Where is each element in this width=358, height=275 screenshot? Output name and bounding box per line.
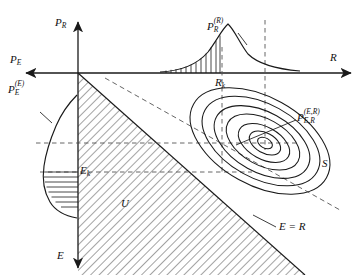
pe-axis-label: PE: [10, 54, 17, 65]
pe-marginal-label: PE(E): [8, 84, 15, 95]
pe-label-leader: [40, 112, 52, 123]
figure-root: PR PE R E PR(R) PE(E) PE,R(E,R) Rk Ek U …: [0, 0, 358, 275]
pr-marginal-label: PR(R): [207, 21, 214, 32]
joint-label-leader: [236, 120, 296, 145]
r-axis-label: R: [330, 52, 337, 63]
pr-axis-label: PR: [55, 17, 62, 28]
ek-label: Ek: [80, 165, 87, 176]
joint-distribution-label: PE,R(E,R): [297, 112, 304, 123]
rk-label: Rk: [215, 77, 222, 88]
figure-canvas: [0, 0, 358, 275]
region-u-label: U: [121, 198, 129, 209]
region-s-label: S: [322, 158, 328, 169]
pe-marginal-curve: [43, 95, 77, 218]
e-equals-r-label-leader: [253, 215, 276, 227]
pr-tail-shading: [166, 36, 220, 74]
pe-tail-shading: [44, 172, 78, 212]
pr-label-leader: [238, 33, 247, 45]
e-equals-r-label: E = R: [279, 221, 305, 232]
e-axis-label: E: [57, 250, 64, 261]
pr-marginal-curve: [160, 24, 300, 72]
